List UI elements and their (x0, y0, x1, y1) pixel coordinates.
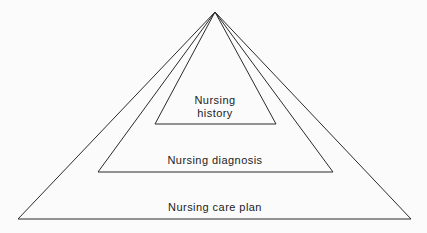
triangle-nursing-history (155, 12, 276, 124)
triangle-nursing-diagnosis (98, 12, 333, 172)
triangle-nursing-care-plan (18, 12, 411, 219)
nested-triangles-diagram: Nursing history Nursing diagnosis Nursin… (0, 0, 427, 233)
triangles-canvas (0, 0, 427, 233)
